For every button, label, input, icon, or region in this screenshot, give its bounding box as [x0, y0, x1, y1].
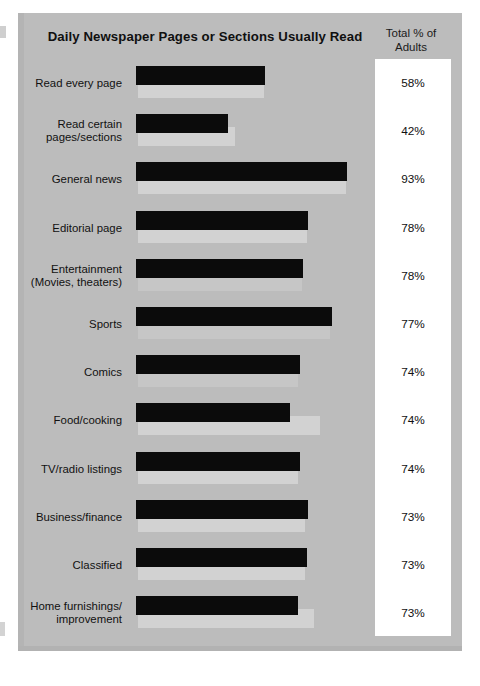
bar-value-label: 74%: [375, 365, 451, 379]
bar-category-label-line1: Home furnishings/: [18, 600, 122, 613]
bar-category-label-line1: TV/radio listings: [18, 462, 122, 475]
bar-category-label-line1: Read certain: [18, 118, 122, 131]
table-row: Read every page58%: [18, 59, 462, 107]
bar-category-label: General news: [18, 173, 122, 186]
bar-category-label-line1: Classified: [18, 559, 122, 572]
bar-value-label: 73%: [375, 558, 451, 572]
table-row: Food/cooking74%: [18, 396, 462, 444]
bar-group: [136, 160, 347, 200]
bar: [136, 114, 228, 133]
bar-category-label-line1: General news: [18, 173, 122, 186]
bar-group: [136, 594, 312, 634]
bar-group: [136, 257, 303, 297]
bar-category-label: Comics: [18, 366, 122, 379]
bar-group: [136, 112, 233, 152]
bar-category-label: Business/finance: [18, 510, 122, 523]
table-row: Read certainpages/sections42%: [18, 107, 462, 155]
bar-group: [136, 546, 307, 586]
bar-value-label: 93%: [375, 172, 451, 186]
bar-category-label-line1: Sports: [18, 318, 122, 331]
bar: [136, 452, 300, 471]
bar-category-label-line1: Comics: [18, 366, 122, 379]
table-row: Classified73%: [18, 541, 462, 589]
bar-category-label: Sports: [18, 318, 122, 331]
bar-group: [136, 305, 332, 345]
bar-category-label-line1: Business/finance: [18, 510, 122, 523]
bar-category-label: TV/radio listings: [18, 462, 122, 475]
bar-category-label-line2: (Movies, theaters): [18, 276, 122, 289]
bar-group: [136, 450, 300, 490]
bar-group: [136, 209, 308, 249]
bar: [136, 403, 290, 422]
bar-category-label: Home furnishings/improvement: [18, 600, 122, 626]
value-column-header: Total % of Adults: [368, 26, 454, 54]
bar-category-label-line1: Entertainment: [18, 263, 122, 276]
bar-group: [136, 353, 300, 393]
bar-category-label: Read certainpages/sections: [18, 118, 122, 144]
bar-group: [136, 401, 318, 441]
value-column-header-line2: Adults: [368, 40, 454, 54]
scan-artifact-top: [0, 26, 6, 38]
bar-category-label-line2: pages/sections: [18, 131, 122, 144]
bar-category-label-line1: Food/cooking: [18, 414, 122, 427]
bar-category-label-line1: Read every page: [18, 77, 122, 90]
bar-category-label: Food/cooking: [18, 414, 122, 427]
bar-group: [136, 64, 265, 104]
bar-value-label: 77%: [375, 317, 451, 331]
bar: [136, 596, 298, 615]
bar-category-label: Editorial page: [18, 221, 122, 234]
bar-category-label: Read every page: [18, 77, 122, 90]
table-row: Business/finance73%: [18, 493, 462, 541]
bar: [136, 500, 308, 519]
bar: [136, 259, 303, 278]
table-row: General news93%: [18, 155, 462, 203]
bar-value-label: 73%: [375, 510, 451, 524]
table-row: Sports77%: [18, 300, 462, 348]
value-column-header-line1: Total % of: [368, 26, 454, 40]
bar-group: [136, 498, 308, 538]
table-row: Comics74%: [18, 348, 462, 396]
scan-artifact-bottom: [0, 622, 5, 636]
bar: [136, 66, 265, 85]
bar-value-label: 78%: [375, 269, 451, 283]
table-row: Entertainment(Movies, theaters)78%: [18, 252, 462, 300]
bar-category-label-line1: Editorial page: [18, 221, 122, 234]
bar: [136, 211, 308, 230]
bar-value-label: 78%: [375, 221, 451, 235]
bar-value-label: 73%: [375, 606, 451, 620]
bar-category-label: Entertainment(Movies, theaters): [18, 263, 122, 289]
bar-value-label: 58%: [375, 76, 451, 90]
chart-panel: Daily Newspaper Pages or Sections Usuall…: [18, 13, 462, 651]
table-row: TV/radio listings74%: [18, 445, 462, 493]
bar: [136, 162, 347, 181]
bar-category-label-line2: improvement: [18, 613, 122, 626]
bar-rows: Read every page58%Read certainpages/sect…: [18, 59, 462, 639]
bar-value-label: 42%: [375, 124, 451, 138]
bar: [136, 355, 300, 374]
table-row: Home furnishings/improvement73%: [18, 589, 462, 637]
table-row: Editorial page78%: [18, 204, 462, 252]
panel-edge-bottom: [18, 646, 462, 651]
bar-value-label: 74%: [375, 462, 451, 476]
chart-title: Daily Newspaper Pages or Sections Usuall…: [40, 29, 370, 44]
bar: [136, 307, 332, 326]
bar: [136, 548, 307, 567]
bar-category-label: Classified: [18, 559, 122, 572]
bar-value-label: 74%: [375, 413, 451, 427]
